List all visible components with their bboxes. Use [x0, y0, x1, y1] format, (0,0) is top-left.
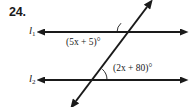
line-label-l1: l1 — [29, 24, 36, 36]
geometry-diagram — [0, 0, 189, 107]
line-label-l1-subscript: 1 — [32, 30, 36, 38]
line-label-l2-subscript: 2 — [32, 78, 36, 86]
line-label-l2: l2 — [29, 72, 36, 84]
transversal-line — [76, 7, 147, 101]
angle-label-lower: (2x + 80)° — [113, 63, 152, 73]
angle-arc-lower — [102, 69, 107, 80]
angle-arc-upper — [117, 23, 121, 32]
angle-label-upper: (5x + 5)° — [66, 37, 100, 47]
geometry-problem-figure: 24. l1 l2 (5x + 5)° (2x — [0, 0, 189, 107]
